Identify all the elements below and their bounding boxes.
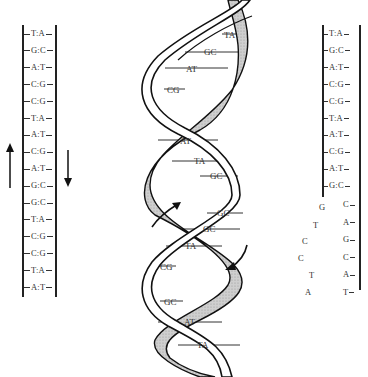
svg-text:CG: CG [167,85,180,95]
bp-label: TA [224,30,236,40]
svg-text:AT: AT [180,136,192,146]
svg-text:GC: GC [210,171,223,181]
svg-text:AT: AT [184,317,196,327]
svg-text:GC: GC [204,47,217,57]
svg-text:TA: TA [197,340,209,350]
svg-text:TA: TA [194,156,206,166]
svg-text:CG: CG [160,262,173,272]
double-helix: TA GC AT CG AT TA GC GC GC TA CG GC AT T… [0,0,368,377]
svg-text:AT: AT [186,64,198,74]
svg-text:TA: TA [185,241,197,251]
svg-text:GC: GC [164,297,177,307]
svg-text:GC: GC [203,224,216,234]
svg-text:GC: GC [217,208,230,218]
